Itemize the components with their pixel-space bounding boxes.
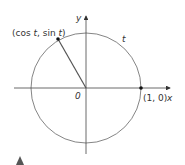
origin-label: 0 [75,91,81,101]
unit-circle-diagram: (cos t, sin t) t y 0 (1, 0) x [0,0,185,165]
point-cos-sin-label: (cos t, sin t) [12,28,66,38]
y-axis-label: y [75,13,82,23]
x-axis-label: x [166,93,173,103]
triangle-marker-icon [16,156,24,165]
point-1-0 [139,86,143,90]
arc-label: t [122,34,126,44]
radius-line [58,39,86,88]
point-1-0-label: (1, 0) [143,93,167,103]
